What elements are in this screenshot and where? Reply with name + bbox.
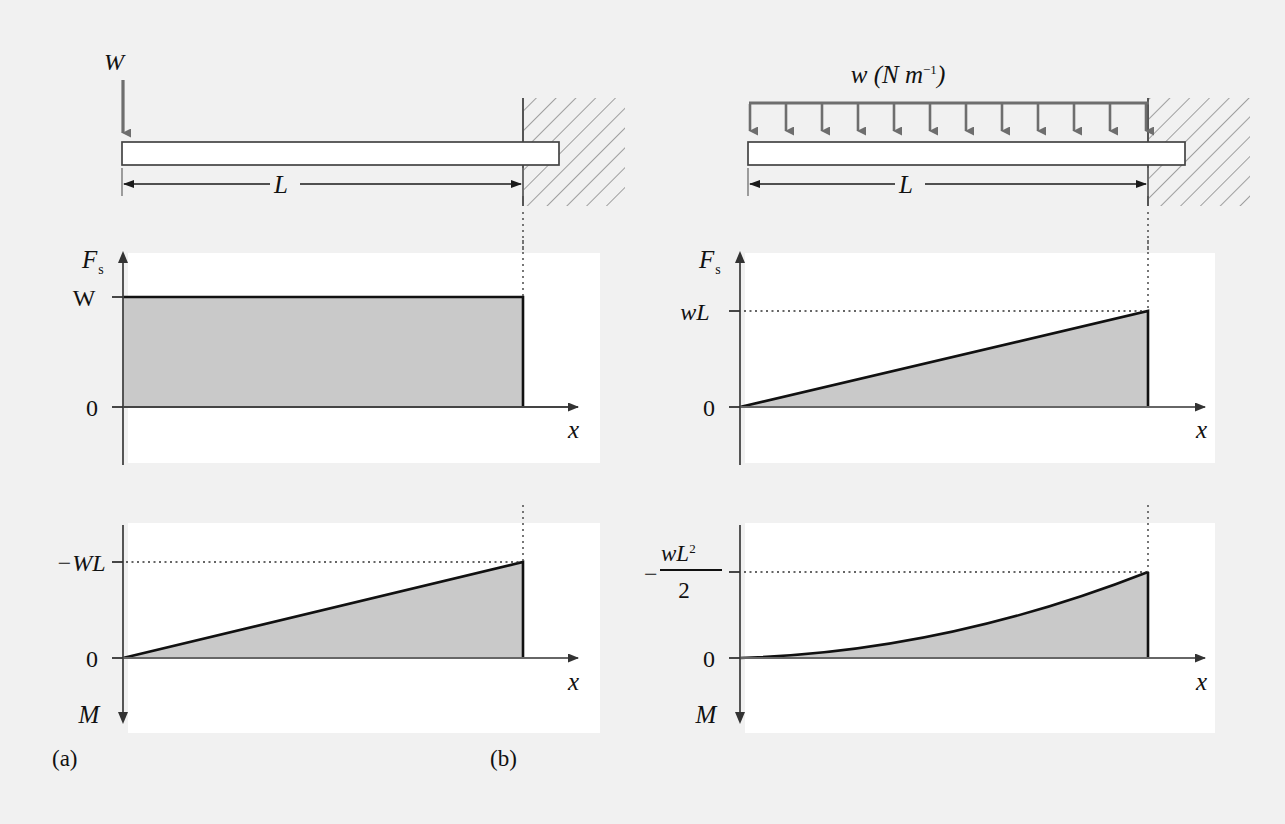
shear-a-ytick-label-zero: 0 xyxy=(86,395,98,421)
panel-a-caption: (a) xyxy=(52,746,78,771)
beam-shear-moment-figure: W L Fs W 0 xyxy=(0,0,1285,824)
panel-a: W L Fs W 0 xyxy=(52,49,625,771)
length-label-a: L xyxy=(273,171,288,198)
moment-b-y-axis-label: M xyxy=(695,701,718,728)
moment-b-fraction-minus: − xyxy=(644,561,658,587)
moment-a-y-axis-label: M xyxy=(78,701,101,728)
moment-b-ytick-label-zero: 0 xyxy=(703,646,715,672)
shear-a-ytick-label-top: W xyxy=(73,285,96,311)
shear-b-ytick-label-zero: 0 xyxy=(703,395,715,421)
moment-b-x-axis-label: x xyxy=(1195,668,1207,695)
panel-b-caption: (b) xyxy=(490,746,517,771)
panel-a-shear-diagram: Fs W 0 x xyxy=(73,240,600,465)
moment-a-x-axis-label: x xyxy=(567,668,579,695)
panel-a-moment-diagram: −WL 0 M x xyxy=(56,505,600,733)
figure-svg: W L Fs W 0 xyxy=(0,0,1285,824)
beam-a xyxy=(122,142,559,165)
moment-a-ytick-label-zero: 0 xyxy=(86,646,98,672)
moment-b-fraction-denominator: 2 xyxy=(678,578,690,603)
shear-b-x-axis-label: x xyxy=(1195,416,1207,443)
beam-b xyxy=(748,142,1185,165)
shear-b-ytick-label-top: wL xyxy=(680,299,709,325)
length-label-b: L xyxy=(898,171,913,198)
shear-a-x-axis-label: x xyxy=(567,416,579,443)
moment-a-ytick-label-top: −WL xyxy=(56,550,106,576)
shear-a-shaded-area xyxy=(123,297,523,407)
panel-b-shear-diagram: Fs wL 0 x xyxy=(680,240,1215,465)
point-load-label: W xyxy=(104,49,126,75)
